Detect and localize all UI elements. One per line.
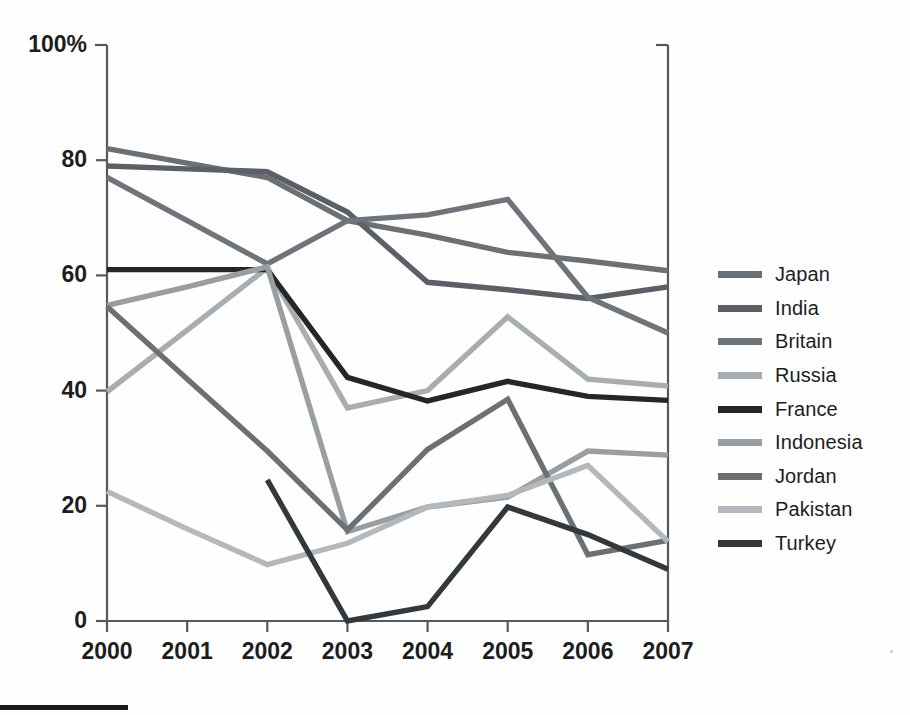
chart-page: 020406080100%200020012002200320042005200… bbox=[0, 0, 910, 715]
legend-swatch-icon bbox=[718, 473, 762, 480]
y-tick-label: 20 bbox=[61, 492, 87, 518]
x-tick-label: 2003 bbox=[322, 638, 373, 664]
legend-item-pakistan[interactable]: Pakistan bbox=[718, 493, 903, 527]
legend-item-turkey[interactable]: Turkey bbox=[718, 527, 903, 561]
x-tick-label: 2006 bbox=[562, 638, 613, 664]
legend-item-france[interactable]: France bbox=[718, 392, 903, 426]
y-tick-label: 100% bbox=[28, 31, 87, 57]
legend-label: Pakistan bbox=[775, 498, 853, 521]
x-tick-label: 2000 bbox=[81, 638, 132, 664]
legend-swatch-icon bbox=[718, 540, 762, 547]
legend-label: Japan bbox=[775, 263, 830, 286]
legend-label: Britain bbox=[775, 330, 832, 353]
legend-item-indonesia[interactable]: Indonesia bbox=[718, 426, 903, 460]
legend-label: India bbox=[775, 297, 819, 320]
x-tick-label: 2002 bbox=[242, 638, 293, 664]
y-tick-label: 60 bbox=[61, 261, 87, 287]
legend-item-india[interactable]: India bbox=[718, 292, 903, 326]
x-tick-label: 2007 bbox=[642, 638, 693, 664]
legend-swatch-icon bbox=[718, 372, 762, 379]
legend-label: Indonesia bbox=[775, 431, 863, 454]
plot-area: 020406080100%200020012002200320042005200… bbox=[0, 0, 700, 700]
legend-label: France bbox=[775, 398, 838, 421]
legend-swatch-icon bbox=[718, 406, 762, 413]
bottom-rule-decoration bbox=[0, 705, 128, 710]
legend-item-jordan[interactable]: Jordan bbox=[718, 460, 903, 494]
legend-swatch-icon bbox=[718, 305, 762, 312]
legend-label: Turkey bbox=[775, 532, 836, 555]
y-tick-label: 40 bbox=[61, 377, 87, 403]
legend-swatch-icon bbox=[718, 506, 762, 513]
legend-label: Russia bbox=[775, 364, 837, 387]
legend-swatch-icon bbox=[718, 338, 762, 345]
x-tick-label: 2004 bbox=[402, 638, 453, 664]
x-tick-label: 2005 bbox=[482, 638, 533, 664]
line-chart: 020406080100%200020012002200320042005200… bbox=[0, 0, 700, 700]
legend-item-russia[interactable]: Russia bbox=[718, 359, 903, 393]
y-tick-label: 0 bbox=[74, 607, 87, 633]
series-line-britain bbox=[107, 177, 668, 333]
legend-item-japan[interactable]: Japan bbox=[718, 258, 903, 292]
legend-item-britain[interactable]: Britain bbox=[718, 325, 903, 359]
legend-swatch-icon bbox=[718, 439, 762, 446]
legend-swatch-icon bbox=[718, 271, 762, 278]
y-tick-label: 80 bbox=[61, 146, 87, 172]
x-tick-label: 2001 bbox=[162, 638, 213, 664]
chart-legend: JapanIndiaBritainRussiaFranceIndonesiaJo… bbox=[718, 258, 903, 560]
edge-speck-artifact bbox=[890, 650, 893, 653]
series-line-india bbox=[107, 166, 668, 298]
legend-label: Jordan bbox=[775, 465, 837, 488]
